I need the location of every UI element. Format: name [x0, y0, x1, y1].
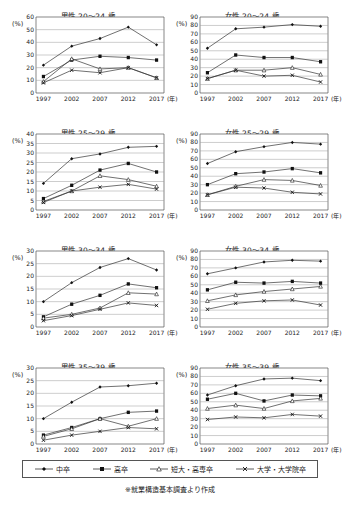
y-tick-label: 25: [26, 378, 34, 384]
y-tick-label: 50: [190, 165, 198, 171]
x-tick-label: 2012: [121, 212, 136, 219]
y-tick-label: 60: [190, 39, 198, 45]
y-tick-label: 70: [190, 148, 198, 154]
chart-panel: 男性 20～24 歳(%)010203040506019972002200720…: [6, 4, 170, 121]
y-tick-label: 20: [26, 390, 34, 396]
source-note: ※就業構造基本調査より作成: [0, 484, 340, 494]
y-tick-label: 10: [26, 188, 34, 194]
x-axis-unit-label: (年): [331, 95, 342, 102]
y-tick-label: 15: [26, 179, 34, 185]
y-axis-unit-label: (%): [12, 20, 23, 28]
y-tick-label: 10: [190, 82, 198, 88]
y-tick-label: 0: [194, 90, 198, 96]
x-tick-label: 2017: [149, 446, 164, 453]
plot-area: 010203040506070809019972002200720122017(…: [200, 251, 328, 327]
legend-item-chusotsu: 中卒: [34, 464, 70, 474]
y-tick-label: 25: [26, 160, 34, 166]
y-tick-label: 60: [26, 14, 34, 20]
y-tick-label: 30: [190, 416, 198, 422]
y-tick-label: 5: [30, 198, 34, 204]
data-point: [291, 280, 294, 283]
data-point: [155, 58, 158, 61]
legend-marker-square-icon: [92, 465, 112, 473]
y-axis-unit-label: (%): [176, 20, 187, 28]
y-tick-label: 15: [26, 403, 34, 409]
x-tick-label: 2007: [92, 212, 107, 219]
y-tick-label: 20: [26, 169, 34, 175]
x-tick-label: 1997: [200, 446, 215, 453]
chart-panel: 女性 35～39 歳(%)010203040506070809019972002…: [170, 355, 334, 472]
data-point: [291, 56, 294, 59]
y-axis-unit-label: (%): [12, 254, 23, 262]
y-axis-unit-label: (%): [176, 137, 187, 145]
x-tick-label: 1997: [200, 329, 215, 336]
data-point: [42, 75, 45, 78]
y-tick-label: 0: [30, 207, 34, 213]
chart-panel: 男性 25～29 歳(%)051015202530354019972002200…: [6, 121, 170, 238]
data-point: [262, 281, 265, 284]
y-tick-label: 0: [30, 90, 34, 96]
y-tick-label: 30: [190, 65, 198, 71]
y-tick-label: 20: [190, 307, 198, 313]
data-point: [291, 167, 294, 170]
y-tick-label: 90: [190, 248, 198, 254]
y-tick-label: 10: [190, 316, 198, 322]
chart-panel: 女性 25～29 歳(%)010203040506070809019972002…: [170, 121, 334, 238]
y-tick-label: 30: [26, 52, 34, 58]
x-tick-label: 1997: [36, 95, 51, 102]
plot-svg: [36, 17, 164, 93]
y-tick-label: 40: [190, 173, 198, 179]
y-tick-label: 70: [190, 31, 198, 37]
y-tick-label: 30: [26, 365, 34, 371]
x-tick-label: 2002: [228, 212, 243, 219]
data-point: [127, 56, 130, 59]
data-point: [262, 399, 265, 402]
y-tick-label: 70: [190, 382, 198, 388]
x-tick-label: 2007: [92, 329, 107, 336]
x-tick-label: 2012: [121, 329, 136, 336]
y-tick-label: 20: [190, 73, 198, 79]
y-tick-label: 20: [190, 190, 198, 196]
y-tick-label: 40: [26, 131, 34, 137]
legend-marker-triangle-icon: [149, 465, 169, 473]
plot-svg: [200, 251, 328, 327]
x-tick-label: 2017: [313, 329, 328, 336]
y-tick-label: 5: [30, 311, 34, 317]
legend-marker-diamond-icon: [34, 465, 54, 473]
legend-item-tandai: 短大・高専卒: [149, 464, 213, 474]
x-tick-label: 1997: [36, 212, 51, 219]
x-tick-label: 2007: [256, 446, 271, 453]
y-tick-label: 80: [190, 373, 198, 379]
y-axis-unit-label: (%): [176, 254, 187, 262]
legend-item-daigaku: 大学・大学院卒: [235, 464, 306, 474]
x-axis-unit-label: (年): [331, 329, 342, 336]
y-tick-label: 30: [190, 182, 198, 188]
x-tick-label: 2017: [149, 95, 164, 102]
y-tick-label: 10: [190, 199, 198, 205]
data-point: [206, 183, 209, 186]
data-point: [70, 184, 73, 187]
x-tick-label: 2012: [285, 329, 300, 336]
y-tick-label: 20: [26, 273, 34, 279]
y-tick-label: 0: [30, 441, 34, 447]
x-tick-label: 2012: [121, 95, 136, 102]
y-tick-label: 80: [190, 139, 198, 145]
plot-area: 010203040506070809019972002200720122017(…: [200, 17, 328, 93]
data-point: [70, 303, 73, 306]
x-axis-unit-label: (年): [331, 446, 342, 453]
y-tick-label: 30: [26, 150, 34, 156]
y-tick-label: 40: [190, 407, 198, 413]
y-tick-label: 10: [26, 299, 34, 305]
y-tick-label: 80: [190, 256, 198, 262]
y-axis-unit-label: (%): [12, 371, 23, 379]
data-point: [234, 281, 237, 284]
x-tick-label: 2002: [228, 95, 243, 102]
x-tick-label: 2002: [228, 446, 243, 453]
y-tick-label: 10: [26, 416, 34, 422]
x-tick-label: 2017: [149, 329, 164, 336]
data-point: [206, 71, 209, 74]
plot-area: 010203040506019972002200720122017(年): [36, 17, 164, 93]
plot-svg: [36, 251, 164, 327]
x-tick-label: 2012: [121, 446, 136, 453]
y-tick-label: 20: [26, 65, 34, 71]
